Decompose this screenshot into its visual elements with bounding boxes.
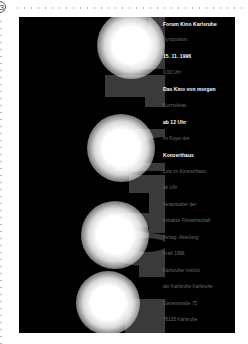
text-line: 76135 Karlsruhe (163, 317, 197, 322)
text-line: der Karlsruhe Karlsruhe (163, 284, 213, 289)
poster: Forum Kino Karlsruhe Symposium 15. 11. 1… (19, 17, 235, 333)
blurred-orb-4 (76, 271, 140, 333)
text-line: ab 12 Uhr (163, 119, 186, 125)
blurred-orb-3 (81, 201, 149, 269)
text-line: Das Kino von morgen (163, 86, 216, 92)
text-line: Verlag: Abteilung (163, 235, 198, 240)
text-line: Im Foyer der (163, 136, 190, 141)
text-line: Veranstalter der (163, 202, 196, 207)
text-line: ab Uhr (163, 185, 177, 190)
text-line: Forum Kino Karlsruhe (163, 21, 217, 27)
text-line: 15. 11. 1996 (163, 53, 191, 59)
poster-text-column: Forum Kino Karlsruhe Symposium 15. 11. 1… (163, 17, 235, 333)
text-line: Gartenstraße 75 (163, 301, 197, 306)
text-line: Symposium (163, 37, 187, 42)
text-line: Konzerthaus (163, 152, 194, 158)
text-line: Kraft 1996 (163, 251, 185, 256)
text-line: Kurzreferat (163, 103, 186, 108)
text-line: Karlsruher Institut (163, 268, 200, 273)
text-line: Initiative Filmwirtschaft (163, 218, 210, 223)
text-line: Lutz im Konzerthaus (163, 169, 206, 174)
page-number-badge: 3 (0, 1, 6, 13)
blurred-orb-2 (87, 114, 155, 182)
text-line: 9.00 Uhr (163, 70, 181, 75)
dotted-border-top (14, 7, 248, 9)
dotted-border-left (0, 18, 2, 344)
